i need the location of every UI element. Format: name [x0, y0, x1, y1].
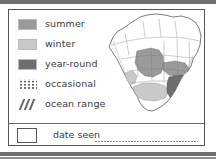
top-rule — [0, 0, 216, 4]
bottom-rule — [0, 152, 216, 156]
legend-entry-winter[interactable]: winter — [18, 37, 76, 51]
year-round-range-area — [167, 75, 191, 100]
legend-entry-ocean-range[interactable]: ocean range — [18, 97, 105, 111]
winter-swatch-icon — [18, 39, 37, 50]
occasional-pattern-icon — [18, 79, 37, 90]
legend-label: winter — [45, 39, 76, 49]
ocean-range-hatch-icon — [18, 99, 37, 110]
legend-label: ocean range — [45, 99, 105, 109]
legend-label: year-round — [45, 59, 98, 69]
north-america-range-map — [107, 11, 204, 123]
legend: summer winter year-round occasional ocea… — [9, 10, 109, 123]
legend-entry-year-round[interactable]: year-round — [18, 57, 98, 71]
date-seen-row: date seen — [9, 124, 204, 145]
legend-entry-occasional[interactable]: occasional — [18, 77, 96, 91]
year-round-swatch-icon — [18, 59, 37, 70]
range-map-legend-card: summer winter year-round occasional ocea… — [8, 9, 205, 146]
legend-label: occasional — [45, 79, 96, 89]
legend-label: summer — [45, 19, 85, 29]
legend-entry-summer[interactable]: summer — [18, 17, 85, 31]
date-seen-input-line[interactable] — [95, 141, 198, 142]
summer-swatch-icon — [18, 19, 37, 30]
bottom-rule-accent — [0, 157, 216, 159]
date-seen-checkbox[interactable] — [17, 128, 37, 143]
date-seen-label: date seen — [53, 130, 100, 140]
